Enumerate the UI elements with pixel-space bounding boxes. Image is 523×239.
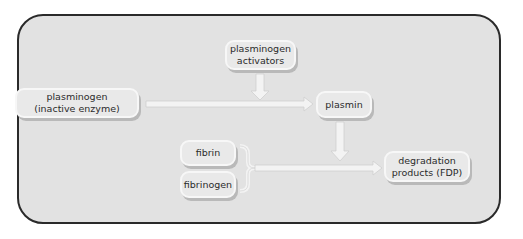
node-fibrinogen: fibrinogen — [180, 171, 236, 198]
node-plasminogen: plasminogen (inactive enzyme) — [15, 88, 139, 118]
arrow-plasmin-down — [331, 122, 349, 161]
arrows-layer — [0, 0, 523, 239]
node-fibrin: fibrin — [180, 140, 236, 166]
brace-icon — [240, 146, 255, 191]
node-plasmin: plasmin — [316, 91, 372, 118]
arrow-activators-down — [251, 74, 269, 100]
node-degradation-products: degradation products (FDP) — [384, 151, 470, 182]
node-plasminogen-activators: plasminogen activators — [225, 40, 296, 70]
arrow-to-fdp — [255, 161, 382, 175]
arrow-plasminogen-to-plasmin — [146, 97, 313, 111]
